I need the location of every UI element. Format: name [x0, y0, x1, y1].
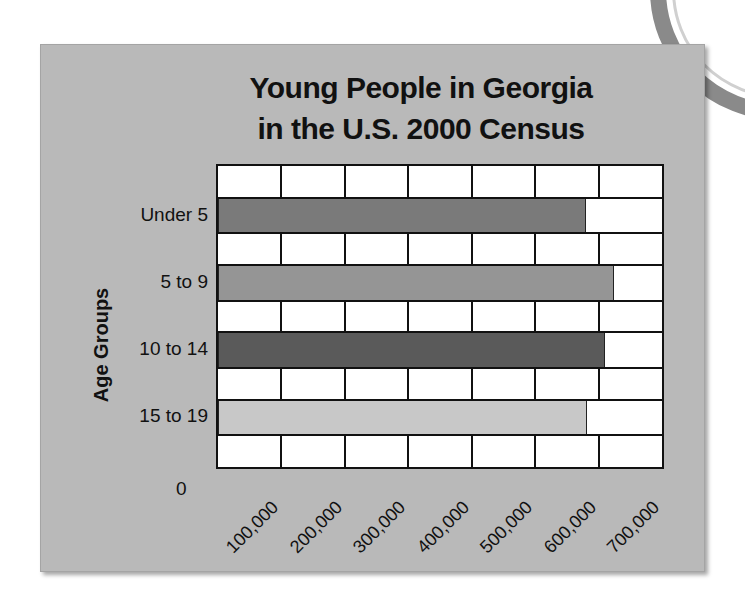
band-line — [218, 331, 662, 333]
bar — [218, 400, 587, 436]
band-line — [218, 300, 662, 302]
chart-title: Young People in Georgia in the U.S. 2000… — [201, 67, 641, 149]
chart-title-line-2: in the U.S. 2000 Census — [201, 108, 641, 149]
bar-row — [218, 400, 662, 436]
chart-panel: Young People in Georgia in the U.S. 2000… — [40, 44, 705, 572]
x-tick-label: 400,000 — [413, 497, 474, 558]
bar — [218, 332, 605, 368]
y-category-label: 5 to 9 — [68, 271, 208, 293]
y-category-label: Under 5 — [68, 204, 208, 226]
band-line — [218, 197, 662, 199]
x-tick-label: 100,000 — [222, 497, 283, 558]
band-line — [218, 264, 662, 266]
x-tick-label: 500,000 — [476, 497, 537, 558]
band-line — [218, 232, 662, 234]
y-category-label: 10 to 14 — [68, 338, 208, 360]
x-tick-label: 600,000 — [540, 497, 601, 558]
y-category-label: 15 to 19 — [68, 405, 208, 427]
x-tick-label: 300,000 — [349, 497, 410, 558]
chart-title-line-1: Young People in Georgia — [201, 67, 641, 108]
band-line — [218, 434, 662, 436]
bar-row — [218, 198, 662, 234]
x-tick-label: 700,000 — [603, 497, 664, 558]
bar-row — [218, 265, 662, 301]
band-line — [218, 399, 662, 401]
x-tick-label: 200,000 — [286, 497, 347, 558]
bar — [218, 198, 586, 234]
x-tick-0: 0 — [176, 478, 187, 500]
bar — [218, 265, 614, 301]
bar-row — [218, 332, 662, 368]
band-line — [218, 367, 662, 369]
plot-area — [216, 164, 664, 469]
